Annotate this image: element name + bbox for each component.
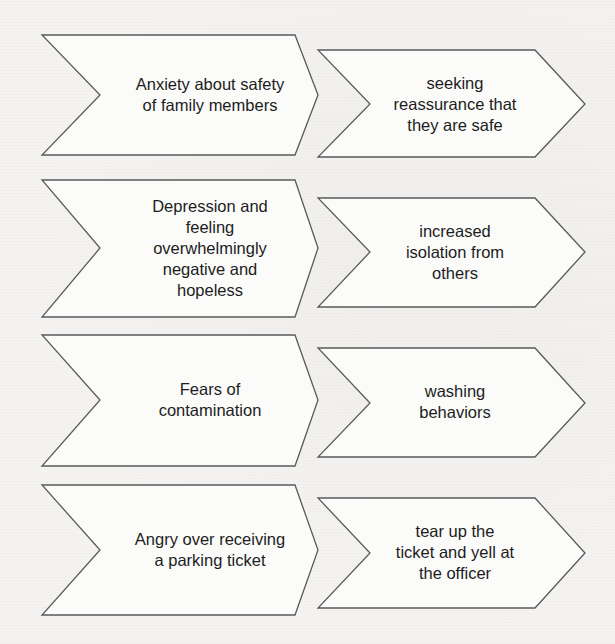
trigger-label-4: Angry over receiving a parking ticket [105,490,315,610]
response-label-3: washing behaviors [370,352,540,452]
response-label-2: increased isolation from others [370,202,540,302]
trigger-label-3: Fears of contamination [105,340,315,460]
response-label-4: tear up the ticket and yell at the offic… [370,502,540,602]
response-label-1: seeking reassurance that they are safe [370,55,540,153]
trigger-label-1: Anxiety about safety of family members [105,40,315,150]
trigger-label-2: Depression and feeling overwhelmingly ne… [105,183,315,313]
